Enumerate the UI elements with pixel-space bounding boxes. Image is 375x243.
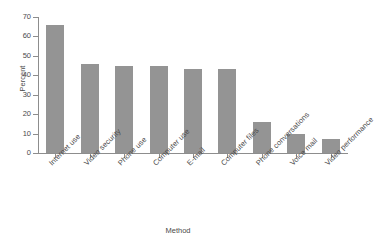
x-axis-title: Method: [0, 226, 356, 235]
y-tick-label: 0: [0, 149, 31, 157]
y-tick-label: 70: [0, 13, 31, 21]
bar: [115, 66, 133, 153]
bar: [218, 69, 236, 153]
y-tick-label: 60: [0, 32, 31, 40]
y-tick-label: 50: [0, 52, 31, 60]
bar: [184, 69, 202, 153]
y-tick-label: 30: [0, 91, 31, 99]
y-tick-label: 20: [0, 110, 31, 118]
bar: [81, 64, 99, 153]
y-tick-label: 10: [0, 130, 31, 138]
bar: [150, 66, 168, 153]
plot-area: [38, 17, 348, 153]
bar: [46, 25, 64, 153]
y-tick-label: 40: [0, 71, 31, 79]
